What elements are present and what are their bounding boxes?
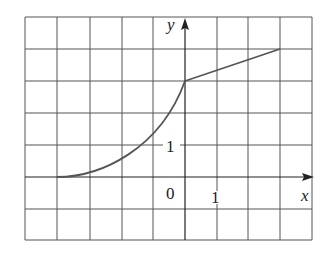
x-tick-1: 1 [211,188,220,207]
grid [25,17,312,240]
origin-label: 0 [166,184,175,203]
curve-series [57,81,185,177]
y-axis-label: y [165,15,175,34]
y-tick-1: 1 [166,137,175,156]
graph: y x 1 0 1 [0,0,328,253]
segment-series [185,49,280,81]
x-axis-label: x [300,186,309,205]
